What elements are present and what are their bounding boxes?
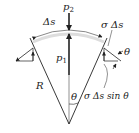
theta-right-label: θ [124,47,130,57]
p1-label: p1 [56,53,67,65]
sigma-delta-s-leader [108,30,112,46]
center-angle-arc [69,103,78,104]
sigma-delta-s-label: σ Δs [101,20,123,30]
p2-label: p2 [63,2,74,14]
theta-center-label: θ [71,92,77,102]
vertical-component-leader [104,64,108,88]
left-force-triangle [16,48,33,61]
right-force-triangle [104,48,123,69]
vertical-component-label: σ Δs sin θ [84,92,129,101]
delta-s-label: Δs [43,17,55,27]
radius-label: R [36,81,44,91]
